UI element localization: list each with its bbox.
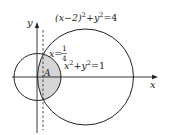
svg-text:x=: x= xyxy=(49,48,62,59)
x-axis xyxy=(12,75,158,79)
intersecting-circles-diagram: y x (x−2)2+y2=4 x= 1 4 x2+y2=1 A xyxy=(0,0,169,135)
y-axis-arrow-icon xyxy=(35,22,39,28)
small-circle-equation: x2+y2=1 xyxy=(64,59,105,71)
svg-text:1: 1 xyxy=(62,44,67,53)
y-axis-label: y xyxy=(26,17,33,28)
large-circle-equation: (x−2)2+y2=4 xyxy=(55,11,117,23)
x-axis-label: x xyxy=(150,79,156,90)
region-label-a: A xyxy=(43,68,51,78)
